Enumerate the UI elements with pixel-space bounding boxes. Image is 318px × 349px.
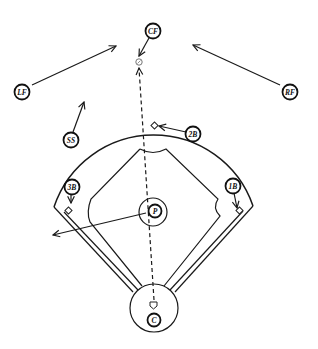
- baseball-field-diagram: CF LF RF SS 2B 3B 1B P C: [0, 0, 318, 349]
- ball-path: [139, 68, 154, 300]
- left-foul-line: [54, 207, 138, 292]
- svg-text:2B: 2B: [188, 130, 198, 139]
- player-3b: 3B: [65, 180, 80, 195]
- svg-text:RF: RF: [284, 88, 295, 97]
- svg-text:SS: SS: [67, 136, 75, 145]
- lf-movement-arrow: [32, 46, 116, 85]
- ss-movement-arrow: [73, 102, 84, 132]
- 1b-movement-arrow: [234, 193, 237, 208]
- player-lf: LF: [15, 85, 30, 100]
- right-foul-line: [170, 206, 253, 292]
- svg-text:CF: CF: [148, 27, 158, 36]
- outfield-arc: [54, 135, 253, 207]
- home-plate: [150, 302, 157, 309]
- svg-text:P: P: [153, 207, 158, 216]
- player-ss: SS: [64, 133, 79, 148]
- third-base: [65, 207, 72, 214]
- 2b-movement-arrow: [159, 126, 186, 132]
- rf-movement-arrow: [193, 45, 280, 85]
- player-cf: CF: [146, 24, 161, 39]
- player-p: P: [149, 205, 162, 218]
- svg-text:1B: 1B: [229, 182, 238, 191]
- player-rf: RF: [283, 85, 298, 100]
- svg-text:LF: LF: [16, 88, 27, 97]
- cf-movement-arrow: [139, 38, 149, 56]
- svg-text:3B: 3B: [67, 183, 77, 192]
- p-movement-arrow: [53, 213, 146, 235]
- player-2b: 2B: [186, 127, 201, 142]
- player-1b: 1B: [226, 179, 241, 194]
- player-c: C: [148, 314, 161, 327]
- second-base: [151, 122, 158, 129]
